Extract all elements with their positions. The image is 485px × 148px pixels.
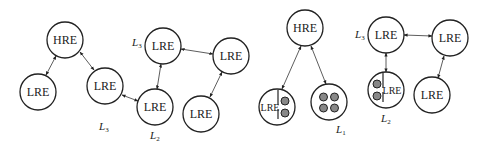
- edge-hre-lre-a: [46, 56, 56, 75]
- node-quad: [311, 84, 347, 120]
- node-label: LRE: [261, 102, 280, 113]
- edge-lre-b-lre-c: [122, 95, 138, 101]
- sub-resource-dot: [281, 109, 289, 117]
- level-label-l2: L2: [380, 112, 391, 126]
- node-label: LRE: [383, 85, 402, 96]
- node-hre: HRE: [287, 10, 323, 46]
- node-lre: LRE: [137, 89, 173, 125]
- edge-lre-c-lre-d: [157, 64, 161, 89]
- node-lre: LRE: [368, 17, 404, 53]
- edge-right-low: [438, 56, 444, 78]
- node-label: LRE: [220, 49, 243, 63]
- sub-resource-dot: [373, 80, 381, 88]
- node-label: LRE: [375, 28, 398, 42]
- level-label-l3: L3: [354, 28, 365, 42]
- node-label: LRE: [190, 107, 213, 121]
- node-lre: LRE: [414, 77, 450, 113]
- edge-hre-lre-b: [80, 52, 94, 70]
- node-lre: LRE: [87, 68, 123, 104]
- edge-lre-d-lre-e: [181, 49, 213, 54]
- sub-resource-dot: [331, 104, 339, 112]
- sub-resource-dot: [281, 97, 289, 105]
- node-label: LRE: [144, 100, 167, 114]
- node-label: LRE: [439, 31, 462, 45]
- node-lre: LRE: [432, 20, 468, 56]
- sub-resource-dot: [331, 93, 339, 101]
- sub-resource-dot: [373, 92, 381, 100]
- node-hre: HRE: [47, 22, 83, 58]
- sub-resource-dot: [320, 104, 328, 112]
- edge-hre-split-a: [282, 46, 301, 89]
- node-label: LRE: [152, 39, 175, 53]
- node-lre: LRE: [213, 38, 249, 74]
- level-label-l2: L2: [149, 129, 160, 143]
- edge-top-right: [404, 35, 432, 36]
- node-lre-partitioned: LRE: [259, 89, 295, 125]
- node-label: HRE: [293, 21, 317, 35]
- node-lre: LRE: [183, 96, 219, 132]
- node-lre-partitioned: LRE: [368, 72, 404, 108]
- sub-resource-dot: [320, 93, 328, 101]
- right-graph-nodes: HRE LRE LRE LRE: [259, 10, 468, 125]
- level-label-l3: L3: [131, 36, 142, 50]
- node-lre: LRE: [145, 28, 181, 64]
- level-label-l3: L3: [98, 120, 109, 134]
- hierarchical-resource-diagram: HRE LRE LRE LRE LRE LRE LRE L3 L3 L: [0, 0, 485, 148]
- level-label-l1: L1: [335, 123, 346, 137]
- edge-hre-quad: [311, 46, 326, 84]
- node-label: LRE: [421, 88, 444, 102]
- node-label: HRE: [53, 33, 77, 47]
- node-lre: LRE: [20, 74, 56, 110]
- edge-lre-e-lre-f: [210, 72, 222, 97]
- node-label: LRE: [27, 85, 50, 99]
- node-label: LRE: [94, 79, 117, 93]
